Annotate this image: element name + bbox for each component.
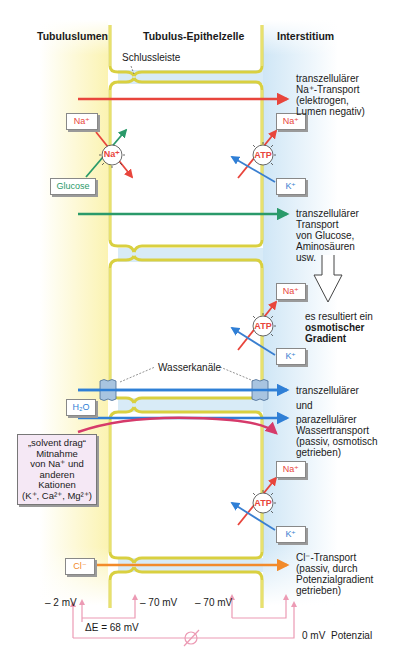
na-lumen-box: Na⁺ bbox=[66, 113, 98, 130]
water-channels-label: Wasserkanäle bbox=[158, 362, 221, 373]
potential-cell-apical: – 70 mV bbox=[140, 597, 177, 608]
cl-box: Cl⁻ bbox=[65, 558, 95, 575]
na-interstitium-box-3: Na⁺ bbox=[276, 461, 306, 478]
potential-lumen: – 2 mV bbox=[45, 597, 77, 608]
atp-label: ATP bbox=[250, 321, 276, 331]
na-transport-description: transzellulärer Na⁺-Transport (elektroge… bbox=[296, 73, 365, 117]
osmotic-gradient-description: es resultiert ein osmotischer Gradient bbox=[305, 311, 373, 344]
nephron-transport-diagram: Na⁺ ATP ATP ATP Tubuluslumen Tubulus-Epi… bbox=[0, 0, 393, 663]
potential-label: Potenzial bbox=[331, 630, 372, 641]
na-k-atpase-2: ATP bbox=[250, 313, 276, 339]
k-interstitium-box-1: K⁺ bbox=[276, 178, 306, 195]
sglt-label: Na⁺ bbox=[99, 149, 125, 159]
atp-label: ATP bbox=[250, 498, 276, 508]
water-transport-and: und bbox=[296, 400, 313, 411]
cl-transport-description: Cl⁻-Transport (passiv, durch Potenzialgr… bbox=[296, 552, 373, 596]
water-transport-paracellular: parazellulärer Wassertransport (passiv, … bbox=[296, 414, 378, 458]
na-k-atpase-1: ATP bbox=[250, 142, 276, 168]
potential-interstitium: 0 mV bbox=[302, 630, 325, 641]
potential-cell-basal: – 70 mV bbox=[195, 597, 232, 608]
header-interstitium: Interstitium bbox=[277, 30, 334, 42]
header-lumen: Tubuluslumen bbox=[37, 30, 108, 42]
potential-difference: ΔE = 68 mV bbox=[85, 622, 139, 633]
tight-junction-label: Schlussleiste bbox=[122, 52, 180, 63]
atp-label: ATP bbox=[250, 150, 276, 160]
sglt-transporter: Na⁺ bbox=[99, 142, 125, 168]
na-k-atpase-3: ATP bbox=[250, 490, 276, 516]
k-interstitium-box-2: K⁺ bbox=[276, 348, 306, 365]
glucose-transport-description: transzellulärer Transport von Glucose, A… bbox=[296, 208, 359, 263]
k-interstitium-box-3: K⁺ bbox=[276, 526, 306, 543]
water-transport-transcellular: transzellulärer bbox=[296, 385, 359, 396]
solvent-drag-box: „solvent drag“ Mitnahme von Na⁺ und ande… bbox=[17, 434, 97, 505]
glucose-box: Glucose bbox=[50, 178, 96, 195]
h2o-box: H₂O bbox=[66, 399, 96, 416]
na-interstitium-box-2: Na⁺ bbox=[276, 283, 306, 300]
header-epithelial-cell: Tubulus-Epithelzelle bbox=[143, 30, 244, 42]
